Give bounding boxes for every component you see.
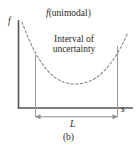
interval-annotation-line-1: Interval of xyxy=(43,34,105,44)
figure-caption: (b) xyxy=(0,132,137,142)
interval-of-uncertainty-annotation: Interval of uncertainty xyxy=(43,34,105,55)
y-axis-label: f xyxy=(8,16,11,26)
length-dimension-label: L xyxy=(70,119,75,129)
chart-title-text: (unimodal) xyxy=(49,8,91,18)
figure-unimodal-interval-of-uncertainty: f(unimodal) Interval of uncertainty f s … xyxy=(0,0,137,151)
x-axis-label: s xyxy=(121,104,125,114)
interval-annotation-line-2: uncertainty xyxy=(43,44,105,54)
chart-title: f(unimodal) xyxy=(46,8,91,18)
figure-canvas xyxy=(0,0,137,151)
